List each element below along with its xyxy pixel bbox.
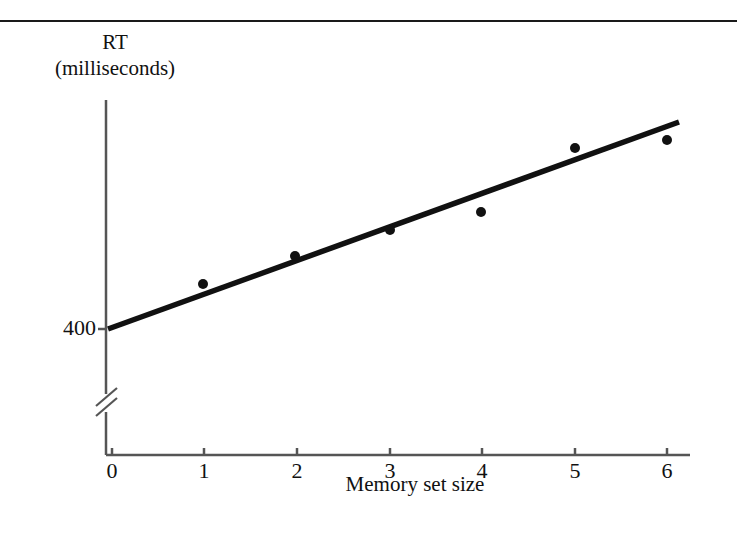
y-tick-label-400: 400 <box>40 315 96 341</box>
x-axis-title: Memory set size <box>280 472 550 498</box>
data-point <box>198 279 208 289</box>
x-tick-label-0: 0 <box>92 458 132 484</box>
x-tick-label-6: 6 <box>647 458 687 484</box>
data-point <box>476 207 486 217</box>
x-tick-label-5: 5 <box>555 458 595 484</box>
data-point <box>570 143 580 153</box>
data-point <box>290 251 300 261</box>
data-point <box>662 135 672 145</box>
best-fit-line <box>108 122 679 329</box>
data-point <box>385 225 395 235</box>
x-tick-label-1: 1 <box>184 458 224 484</box>
plot-area <box>0 0 737 535</box>
figure-container: RT (milliseconds) <box>0 0 737 535</box>
